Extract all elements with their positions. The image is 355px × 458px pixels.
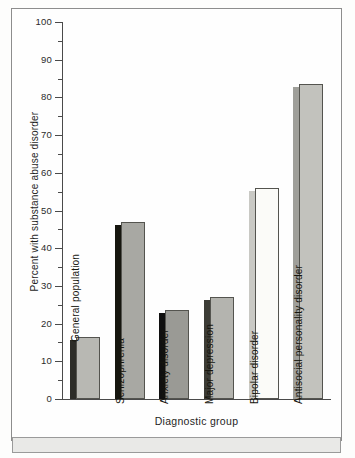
x-axis-line: [62, 399, 331, 400]
y-tick-label: 10: [22, 356, 52, 365]
y-tick-major: [55, 135, 63, 136]
y-tick-major: [55, 211, 63, 212]
y-tick-major: [55, 60, 63, 61]
bar-category-label: Major depression: [204, 324, 215, 404]
bar[interactable]: [70, 337, 100, 399]
bar-category-label: General population: [70, 254, 81, 342]
x-axis-title: Diagnostic group: [62, 415, 331, 427]
y-axis-title: Percent with substance abuse disorder: [29, 72, 40, 332]
y-tick-major: [55, 22, 63, 23]
plot-area: General populationSchizophreniaAnxiety d…: [63, 22, 331, 399]
y-tick-label: 0: [22, 394, 52, 403]
y-tick-major: [55, 361, 63, 362]
bar-category-label: Anxiety disorder: [159, 329, 170, 404]
y-tick-major: [55, 324, 63, 325]
bar-category-label: Schizophrenia: [115, 338, 126, 404]
y-tick-major: [55, 248, 63, 249]
footer-band: [12, 437, 341, 453]
y-tick-major: [55, 286, 63, 287]
bar-category-label: Antisocial personality disorder: [293, 265, 304, 404]
y-tick-major: [55, 97, 63, 98]
figure-container: 0102030405060708090100 Percent with subs…: [0, 0, 355, 458]
y-tick-label: 100: [22, 17, 52, 26]
bar-front-face: [76, 337, 100, 399]
y-tick-label: 90: [22, 55, 52, 64]
y-tick-major: [55, 173, 63, 174]
bar-category-label: Bipolar disorder: [249, 331, 260, 404]
y-tick-major: [55, 399, 63, 400]
